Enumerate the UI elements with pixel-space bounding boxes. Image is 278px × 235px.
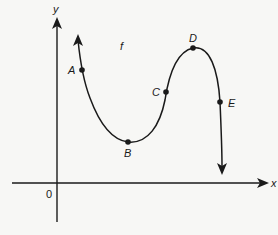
point-d-label: D xyxy=(189,32,197,44)
x-axis-label: x xyxy=(270,177,277,189)
function-label: f xyxy=(120,40,124,52)
function-graph: y x 0 f A B C D E xyxy=(0,0,278,235)
point-b-label: B xyxy=(124,147,131,159)
function-curve xyxy=(73,34,227,175)
point-a-label: A xyxy=(67,64,75,76)
point-c-label: C xyxy=(152,86,160,98)
y-axis: y xyxy=(52,3,62,222)
y-axis-label: y xyxy=(52,3,60,15)
origin-label: 0 xyxy=(46,188,52,200)
point-e-label: E xyxy=(228,97,236,109)
